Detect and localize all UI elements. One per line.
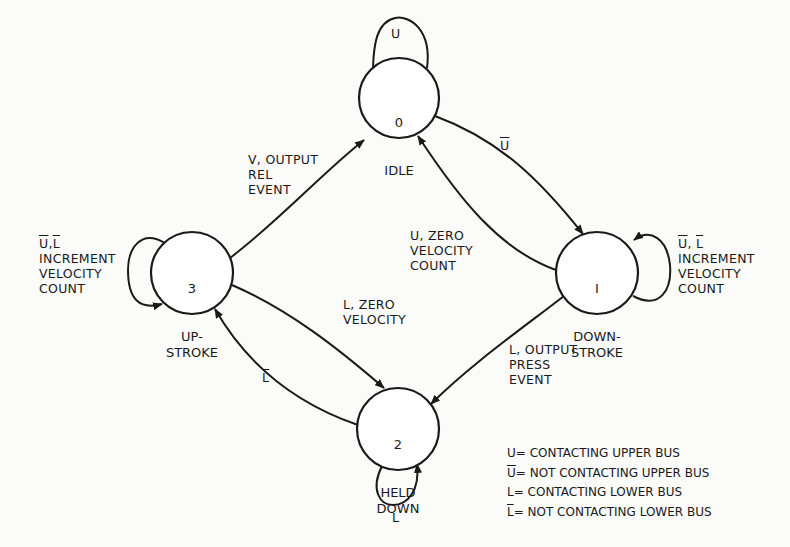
state-1-number: I [557, 281, 637, 297]
legend-row-u: U= CONTACTING UPPER BUS [507, 444, 712, 464]
label-self-1-condition: U, L [678, 236, 703, 251]
edge-0-1 [435, 116, 583, 234]
legend-symbol: U [507, 466, 516, 480]
state-0-number: 0 [359, 115, 439, 131]
legend-row-l: L= CONTACTING LOWER BUS [507, 483, 712, 503]
legend-symbol: L [507, 485, 514, 499]
legend-text: = NOT CONTACTING UPPER BUS [516, 466, 710, 480]
legend-row-not-u: U= NOT CONTACTING UPPER BUS [507, 464, 712, 484]
label-edge-1-2: L, OUTPUT PRESS EVENT [509, 342, 578, 387]
label-edge-2-3: L [262, 370, 269, 385]
label-edge-3-2: L, ZERO VELOCITY [343, 297, 406, 327]
label-self-2: L [392, 510, 399, 525]
state-3-upstroke: 3 UP- STROKE [152, 249, 232, 377]
label-self-3-action: INCREMENT VELOCITY COUNT [39, 251, 116, 296]
legend-text: = NOT CONTACTING LOWER BUS [514, 505, 712, 519]
state-3-name: UP- STROKE [152, 329, 232, 361]
state-0-name: IDLE [359, 163, 439, 179]
label-self-3-condition: U,L [39, 236, 60, 251]
not-l-symbol: L [53, 236, 60, 251]
legend-symbol: U [507, 446, 516, 460]
label-edge-0-1: U [500, 138, 509, 153]
legend-text: = CONTACTING LOWER BUS [514, 485, 682, 499]
legend-text: = CONTACTING UPPER BUS [516, 446, 680, 460]
state-3-number: 3 [152, 281, 232, 297]
legend-row-not-l: L= NOT CONTACTING LOWER BUS [507, 503, 712, 523]
legend: U= CONTACTING UPPER BUS U= NOT CONTACTIN… [507, 444, 712, 522]
state-0-idle: 0 IDLE [359, 83, 439, 195]
edge-2-3 [215, 309, 358, 425]
label-self-1-action: INCREMENT VELOCITY COUNT [678, 251, 755, 296]
not-l-symbol: L [696, 236, 703, 251]
state-2-number: 2 [358, 437, 438, 453]
label-edge-3-0: V, OUTPUT REL EVENT [248, 152, 318, 197]
label-edge-1-0: U, ZERO VELOCITY COUNT [410, 228, 473, 273]
label-self-0: U [391, 26, 400, 41]
legend-symbol: L [507, 505, 514, 519]
separator: , [687, 236, 696, 251]
